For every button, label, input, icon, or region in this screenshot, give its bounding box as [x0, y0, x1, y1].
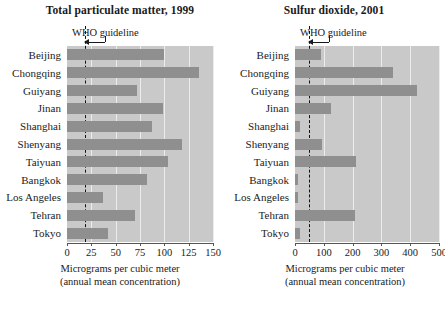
gridline	[439, 46, 440, 242]
y-axis-label-los-angeles: Los Angeles	[6, 191, 61, 203]
y-axis-label-tokyo: Tokyo	[261, 227, 289, 239]
x-axis-tick-label: 100	[316, 247, 332, 258]
bar	[67, 67, 199, 78]
bar	[67, 121, 152, 132]
x-axis-tick	[91, 243, 92, 246]
x-axis-tick-label: 125	[181, 247, 197, 258]
x-axis-caption-line1: Micrograms per cubic meter	[223, 262, 445, 275]
y-axis-category-labels: BeijingChongqingGuiyangJinanShanghaiShen…	[223, 46, 292, 242]
x-axis-tick-label: 100	[156, 247, 172, 258]
y-axis-label-shanghai: Shanghai	[20, 120, 61, 132]
bar	[295, 139, 322, 150]
x-axis-tick-label: 25	[86, 247, 97, 258]
y-axis-label-guiyang: Guiyang	[251, 85, 289, 97]
bar	[295, 228, 300, 239]
x-axis-tick	[353, 243, 354, 246]
y-axis-label-tehran: Tehran	[259, 209, 289, 221]
bar	[295, 49, 321, 60]
x-axis-tick	[140, 243, 141, 246]
figure-root: Total particulate matter, 1999 BeijingCh…	[0, 0, 445, 309]
y-axis-label-tehran: Tehran	[31, 209, 61, 221]
x-axis-line	[295, 243, 439, 244]
y-axis-label-shenyang: Shenyang	[18, 138, 61, 150]
plot-area	[67, 46, 213, 242]
bar	[67, 103, 163, 114]
x-axis-tick-label: 150	[205, 247, 221, 258]
x-axis-tick	[295, 243, 296, 246]
bar	[67, 49, 164, 60]
bar	[67, 228, 108, 239]
x-axis-tick-label: 200	[345, 247, 361, 258]
x-axis-caption-line2: (annual mean concentration)	[0, 275, 222, 288]
x-axis-tick	[381, 243, 382, 246]
chart-title: Total particulate matter, 1999	[0, 4, 222, 16]
x-axis-tick	[213, 243, 214, 246]
bar	[67, 85, 137, 96]
bar	[295, 156, 356, 167]
x-axis-caption-line1: Micrograms per cubic meter	[0, 262, 222, 275]
who-guideline-arrow	[85, 42, 107, 50]
x-axis-tick	[189, 243, 190, 246]
y-axis-label-tokyo: Tokyo	[33, 227, 61, 239]
x-axis-tick-label: 0	[292, 247, 297, 258]
plot-area	[295, 46, 439, 242]
y-axis-label-jinan: Jinan	[266, 102, 289, 114]
x-axis-tick-label: 300	[374, 247, 390, 258]
x-axis-tick	[67, 243, 68, 246]
x-axis-tick-label: 400	[402, 247, 418, 258]
bar	[67, 139, 182, 150]
bar	[67, 210, 135, 221]
y-axis-label-beijing: Beijing	[29, 49, 61, 61]
bar	[295, 210, 355, 221]
chart-panel-sulfur-dioxide: Sulfur dioxide, 2001 BeijingChongqingGui…	[223, 0, 445, 309]
x-axis-caption-line2: (annual mean concentration)	[223, 275, 445, 288]
y-axis-label-jinan: Jinan	[38, 102, 61, 114]
y-axis-label-guiyang: Guiyang	[23, 85, 61, 97]
y-axis-label-chongqing: Chongqing	[240, 67, 289, 79]
bar	[295, 174, 298, 185]
gridline	[410, 46, 411, 242]
bar	[295, 85, 417, 96]
bar	[295, 103, 331, 114]
x-axis-tick	[439, 243, 440, 246]
y-axis-label-taiyuan: Taiyuan	[26, 156, 61, 168]
y-axis-label-beijing: Beijing	[257, 49, 289, 61]
gridline	[213, 46, 214, 242]
y-axis-category-labels: BeijingChongqingGuiyangJinanShanghaiShen…	[0, 46, 64, 242]
who-guideline-arrow	[309, 42, 331, 50]
x-axis-tick-label: 500	[431, 247, 445, 258]
x-axis-tick	[116, 243, 117, 246]
y-axis-label-shenyang: Shenyang	[246, 138, 289, 150]
x-axis-tick-label: 50	[110, 247, 121, 258]
x-axis-tick	[164, 243, 165, 246]
bar	[67, 174, 147, 185]
y-axis-label-taiyuan: Taiyuan	[254, 156, 289, 168]
bar	[67, 192, 103, 203]
y-axis-label-los-angeles: Los Angeles	[234, 191, 289, 203]
bar	[295, 192, 298, 203]
y-axis-label-shanghai: Shanghai	[248, 120, 289, 132]
y-axis-label-bangkok: Bangkok	[249, 174, 289, 186]
y-axis-label-bangkok: Bangkok	[21, 174, 61, 186]
who-guideline-label: WHO guideline	[300, 27, 367, 38]
bar	[295, 121, 300, 132]
y-axis-label-chongqing: Chongqing	[12, 67, 61, 79]
x-axis-tick-label: 75	[135, 247, 146, 258]
bar	[67, 156, 168, 167]
chart-title: Sulfur dioxide, 2001	[223, 4, 445, 16]
bar	[295, 67, 393, 78]
x-axis-tick	[324, 243, 325, 246]
x-axis-tick	[410, 243, 411, 246]
chart-panel-total-particulate-matter: Total particulate matter, 1999 BeijingCh…	[0, 0, 222, 309]
x-axis-tick-label: 0	[64, 247, 69, 258]
